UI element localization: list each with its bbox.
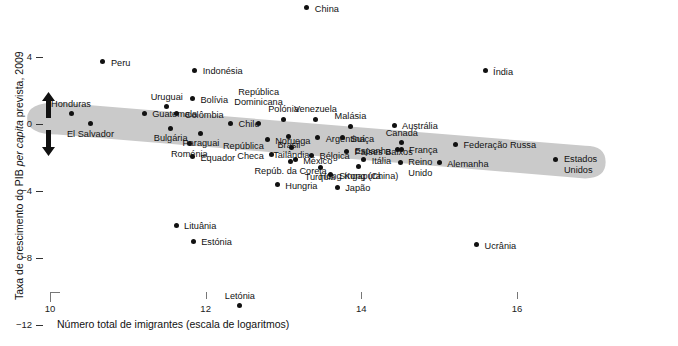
- data-point[interactable]: [168, 126, 173, 131]
- data-point-label: Itália: [372, 156, 391, 166]
- data-point-label: Letónia: [140, 291, 340, 301]
- data-point[interactable]: [309, 153, 314, 158]
- data-point[interactable]: [88, 121, 93, 126]
- data-point-label: Indonésia: [203, 66, 243, 76]
- y-tick-label: 0: [2, 118, 32, 129]
- data-point[interactable]: [553, 157, 558, 162]
- x-axis-title: Número total de imigrantes (escala de lo…: [57, 318, 289, 330]
- data-point-label: Ucrânia: [485, 241, 517, 251]
- y-tick-label: −8: [2, 252, 32, 263]
- data-point[interactable]: [288, 159, 293, 164]
- x-tick-mark: [517, 292, 518, 299]
- y-tick-mark: [36, 57, 43, 58]
- data-point[interactable]: [256, 121, 261, 126]
- data-point[interactable]: [474, 242, 479, 247]
- data-point-label: Reino Unido: [408, 157, 432, 178]
- data-point[interactable]: [192, 68, 197, 73]
- data-point-label: Peru: [111, 58, 130, 68]
- data-point[interactable]: [100, 59, 105, 64]
- y-tick-mark: [36, 124, 43, 125]
- data-point[interactable]: [361, 157, 366, 162]
- y-tick-mark: [36, 258, 43, 259]
- x-tick-label: 12: [186, 303, 226, 314]
- scatter-chart: Taxa de crescimento do PIB per capita pr…: [0, 0, 678, 346]
- y-tick-label: −12: [2, 319, 32, 330]
- data-point-label: Estónia: [201, 237, 232, 247]
- data-point[interactable]: [399, 140, 404, 145]
- data-point[interactable]: [304, 5, 309, 10]
- data-point[interactable]: [289, 145, 294, 150]
- x-tick-mark: [361, 292, 362, 299]
- data-point[interactable]: [453, 142, 458, 147]
- y-tick-label: 4: [2, 51, 32, 62]
- data-point-label: Lituânia: [184, 221, 216, 231]
- data-point-label: Honduras: [0, 99, 171, 109]
- data-point-label: Índia: [493, 67, 513, 77]
- data-point[interactable]: [344, 149, 349, 154]
- x-tick-label: 10: [30, 303, 70, 314]
- data-point[interactable]: [335, 185, 340, 190]
- data-point[interactable]: [191, 239, 196, 244]
- data-point[interactable]: [142, 111, 147, 116]
- y-tick-mark: [36, 191, 43, 192]
- data-point[interactable]: [399, 147, 404, 152]
- data-point-label: Malásia: [250, 111, 450, 121]
- data-point[interactable]: [398, 160, 403, 165]
- data-point-label: Federação Russa: [464, 140, 537, 150]
- data-point-label: China: [315, 4, 339, 14]
- data-point[interactable]: [437, 160, 442, 165]
- data-point-label: Canadá: [302, 128, 502, 138]
- data-point[interactable]: [275, 182, 280, 187]
- data-point-label: Espanha: [355, 146, 391, 156]
- y-tick-label: −4: [2, 185, 32, 196]
- x-tick-label: 14: [341, 303, 381, 314]
- data-point-label: Singapura: [339, 171, 381, 181]
- data-point[interactable]: [293, 157, 298, 162]
- data-point[interactable]: [174, 223, 179, 228]
- axis-corner: [50, 292, 60, 302]
- data-point-label: Alemanha: [447, 159, 488, 169]
- data-point[interactable]: [237, 303, 242, 308]
- data-point[interactable]: [483, 68, 488, 73]
- data-point-label: Japão: [345, 183, 370, 193]
- data-point[interactable]: [228, 121, 233, 126]
- x-tick-label: 16: [497, 303, 537, 314]
- data-point-label: República Checa: [223, 141, 264, 162]
- data-point-label: França: [409, 145, 438, 155]
- data-point[interactable]: [69, 111, 74, 116]
- y-tick-mark: [36, 325, 43, 326]
- data-point-label: Estados Unidos: [564, 154, 597, 175]
